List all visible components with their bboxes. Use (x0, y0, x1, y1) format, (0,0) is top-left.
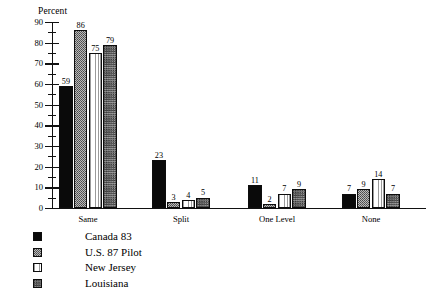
bar: 5 (196, 198, 210, 208)
bar-value-label: 11 (251, 177, 259, 185)
bar: 23 (152, 160, 166, 208)
bar: 86 (74, 30, 88, 208)
y-minor-tick (48, 198, 56, 199)
bar-group-none: 79147 (342, 22, 400, 208)
bar-slot: 7 (386, 22, 400, 208)
bar: 9 (292, 189, 306, 208)
tick-mark (45, 146, 59, 147)
bar-value-label: 14 (374, 171, 382, 179)
bar-value-label: 9 (362, 181, 366, 189)
bar: 79 (103, 45, 117, 208)
category-label-split: Split (173, 214, 189, 224)
bar-slot: 5 (196, 22, 210, 208)
legend-item-canada-83[interactable]: Canada 83 (33, 229, 142, 245)
legend-swatch-icon (33, 248, 42, 257)
legend-label: New Jersey (85, 262, 136, 273)
bar-value-label: 7 (347, 185, 351, 193)
y-tick-label: 50 (34, 100, 43, 109)
y-minor-tick (48, 74, 56, 75)
y-minor-tick (48, 53, 56, 54)
y-tick-label: 90 (34, 18, 43, 27)
bar-group-split: 23345 (152, 22, 210, 208)
bar-chart: Percent 0102030405060708090 598675792334… (0, 0, 445, 298)
tick-mark (45, 125, 59, 126)
bar: 59 (59, 86, 73, 208)
bar-slot: 23 (152, 22, 166, 208)
y-tick-label: 20 (34, 162, 43, 171)
legend-label: Canada 83 (85, 231, 132, 242)
bar-slot: 9 (292, 22, 306, 208)
category-label-none: None (362, 214, 381, 224)
legend-label: Louisiana (85, 278, 128, 289)
plot-area: 0102030405060708090 59867579233451127979… (52, 22, 425, 208)
tick-mark (45, 105, 59, 106)
bar: 11 (248, 185, 262, 208)
bar-slot: 79 (103, 22, 117, 208)
bar-slot: 86 (74, 22, 88, 208)
bar-slot: 7 (342, 22, 356, 208)
tick-mark (45, 167, 59, 168)
legend-label: U.S. 87 Pilot (85, 247, 142, 258)
y-minor-tick (48, 115, 56, 116)
tick-mark (45, 22, 59, 23)
y-tick-label: 40 (34, 121, 43, 130)
bar-value-label: 7 (391, 185, 395, 193)
bar-slot: 7 (278, 22, 292, 208)
tick-mark (45, 208, 59, 209)
bar-slot: 2 (263, 22, 277, 208)
bar-slot: 14 (372, 22, 386, 208)
y-tick-label: 0 (39, 204, 43, 213)
bar: 7 (278, 194, 292, 208)
legend-swatch-icon (33, 232, 42, 241)
bar-value-label: 75 (91, 45, 99, 53)
bar-value-label: 59 (62, 78, 70, 86)
bar-slot: 3 (167, 22, 181, 208)
y-tick-label: 10 (34, 183, 43, 192)
bar: 75 (89, 53, 103, 208)
legend-swatch-icon (33, 279, 42, 288)
bar-value-label: 86 (77, 22, 85, 30)
legend-item-u-s-87-pilot[interactable]: U.S. 87 Pilot (33, 245, 142, 261)
bar-group-same: 59867579 (59, 22, 117, 208)
bar-value-label: 3 (172, 194, 176, 202)
bar: 4 (182, 200, 196, 208)
bar: 3 (167, 202, 181, 208)
bar-slot: 75 (89, 22, 103, 208)
bar: 7 (386, 194, 400, 208)
legend: Canada 83U.S. 87 PilotNew JerseyLouisian… (33, 229, 142, 291)
legend-item-louisiana[interactable]: Louisiana (33, 276, 142, 292)
bar-value-label: 5 (201, 189, 205, 197)
y-minor-tick (48, 94, 56, 95)
bar-slot: 59 (59, 22, 73, 208)
category-label-one-level: One Level (259, 214, 295, 224)
bar: 9 (357, 189, 371, 208)
y-minor-tick (48, 177, 56, 178)
y-tick-label: 70 (34, 59, 43, 68)
y-minor-tick (48, 156, 56, 157)
bar-value-label: 9 (297, 181, 301, 189)
bar-value-label: 2 (268, 196, 272, 204)
legend-swatch-icon (33, 263, 42, 272)
tick-mark (45, 187, 59, 188)
bar-value-label: 23 (155, 152, 163, 160)
y-tick-label: 60 (34, 80, 43, 89)
legend-item-new-jersey[interactable]: New Jersey (33, 260, 142, 276)
bar: 2 (263, 204, 277, 208)
x-axis-line (52, 208, 426, 209)
bar-slot: 9 (357, 22, 371, 208)
tick-mark (45, 43, 59, 44)
bar: 14 (372, 179, 386, 208)
bar: 7 (342, 194, 356, 208)
y-axis-title: Percent (38, 6, 67, 16)
bar-slot: 4 (182, 22, 196, 208)
y-tick-label: 80 (34, 38, 43, 47)
tick-mark (45, 84, 59, 85)
bar-value-label: 4 (186, 192, 190, 200)
bar-slot: 11 (248, 22, 262, 208)
bar-group-one-level: 11279 (248, 22, 306, 208)
y-minor-tick (48, 32, 56, 33)
y-tick-label: 30 (34, 142, 43, 151)
y-minor-tick (48, 136, 56, 137)
tick-mark (45, 63, 59, 64)
category-label-same: Same (78, 214, 97, 224)
